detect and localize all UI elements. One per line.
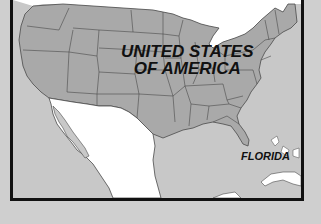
us-map: [13, 0, 301, 198]
map-frame: UNITED STATES OF AMERICA FLORIDA: [10, 0, 304, 201]
state-label-florida: FLORIDA: [241, 151, 290, 162]
yucatan: [213, 192, 241, 198]
country-label-line2: OF AMERICA: [121, 60, 254, 77]
cuba: [261, 172, 301, 186]
country-label-line1: UNITED STATES: [121, 43, 254, 60]
country-label: UNITED STATES OF AMERICA: [121, 43, 254, 77]
